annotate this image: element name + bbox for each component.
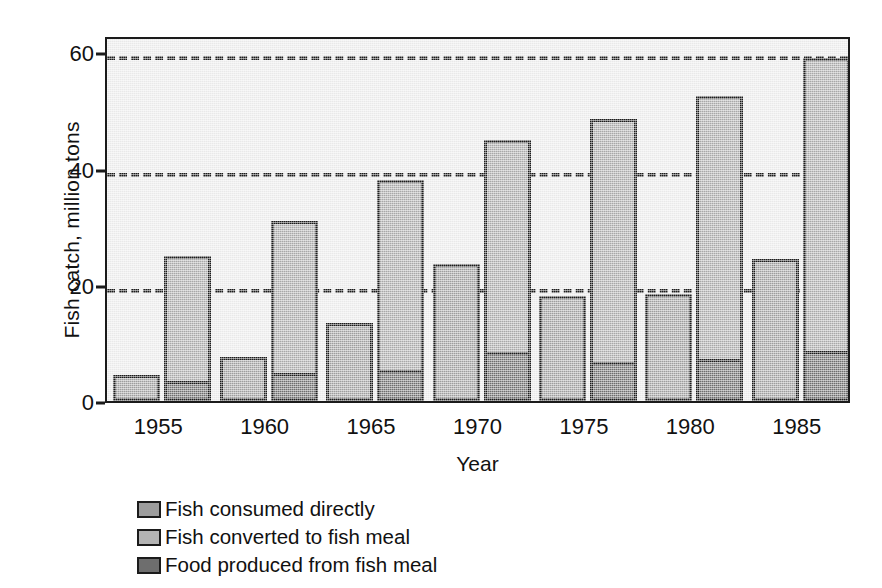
legend-item-1[interactable]: Fish converted to fish meal bbox=[137, 524, 437, 550]
bar-food-from-fish-meal-1955[interactable] bbox=[164, 381, 211, 401]
bar-converted-to-fish-meal-1985[interactable] bbox=[803, 58, 850, 401]
bar-group-1980 bbox=[645, 35, 743, 401]
chart-legend: Fish consumed directlyFish converted to … bbox=[137, 496, 437, 580]
bar-consumed-directly-1985[interactable] bbox=[752, 259, 799, 401]
bar-food-from-fish-meal-1980[interactable] bbox=[696, 359, 743, 401]
x-tick-label-1960: 1960 bbox=[205, 414, 325, 440]
bar-group-1965 bbox=[326, 35, 424, 401]
bar-converted-to-fish-meal-1965[interactable] bbox=[377, 180, 424, 401]
bar-converted-to-fish-meal-1955[interactable] bbox=[164, 256, 211, 401]
bar-consumed-directly-1975[interactable] bbox=[539, 296, 586, 401]
legend-label-0: Fish consumed directly bbox=[165, 499, 375, 520]
x-tick-label-1970: 1970 bbox=[418, 414, 538, 440]
legend-swatch-icon-1 bbox=[137, 529, 161, 546]
x-tick-label-1975: 1975 bbox=[524, 414, 644, 440]
y-tick-mark-0 bbox=[96, 402, 105, 405]
bar-consumed-directly-1955[interactable] bbox=[113, 375, 160, 401]
x-tick-label-1980: 1980 bbox=[630, 414, 750, 440]
legend-item-2[interactable]: Food produced from fish meal bbox=[137, 552, 437, 578]
legend-swatch-icon-2 bbox=[137, 557, 161, 574]
y-tick-mark-60 bbox=[96, 53, 105, 56]
bar-converted-to-fish-meal-1970[interactable] bbox=[484, 140, 531, 401]
fish-catch-bar-chart: Fish catch, million tons 0204060 1955196… bbox=[0, 0, 882, 588]
y-tick-label-20: 20 bbox=[42, 274, 94, 300]
bar-group-1975 bbox=[539, 35, 637, 401]
bar-group-1985 bbox=[752, 35, 850, 401]
bar-food-from-fish-meal-1985[interactable] bbox=[803, 351, 850, 401]
plot-area bbox=[105, 37, 850, 403]
x-tick-label-1985: 1985 bbox=[737, 414, 857, 440]
bar-consumed-directly-1970[interactable] bbox=[433, 264, 480, 401]
y-tick-mark-20 bbox=[96, 285, 105, 288]
y-tick-mark-40 bbox=[96, 169, 105, 172]
x-axis-title: Year bbox=[105, 452, 850, 476]
bar-converted-to-fish-meal-1980[interactable] bbox=[696, 96, 743, 401]
bar-group-1970 bbox=[433, 35, 531, 401]
bar-food-from-fish-meal-1975[interactable] bbox=[590, 362, 637, 402]
bar-consumed-directly-1965[interactable] bbox=[326, 323, 373, 401]
legend-label-2: Food produced from fish meal bbox=[165, 555, 437, 576]
bar-food-from-fish-meal-1970[interactable] bbox=[484, 352, 531, 401]
bar-food-from-fish-meal-1965[interactable] bbox=[377, 370, 424, 401]
y-tick-label-60: 60 bbox=[42, 41, 94, 67]
x-tick-label-1965: 1965 bbox=[311, 414, 431, 440]
bar-group-1960 bbox=[220, 35, 318, 401]
y-tick-label-40: 40 bbox=[42, 158, 94, 184]
bar-converted-to-fish-meal-1975[interactable] bbox=[590, 119, 637, 401]
legend-item-0[interactable]: Fish consumed directly bbox=[137, 496, 437, 522]
bar-converted-to-fish-meal-1960[interactable] bbox=[271, 221, 318, 401]
legend-label-1: Fish converted to fish meal bbox=[165, 527, 410, 548]
bar-consumed-directly-1980[interactable] bbox=[645, 294, 692, 401]
x-tick-label-1955: 1955 bbox=[98, 414, 218, 440]
bar-food-from-fish-meal-1960[interactable] bbox=[271, 373, 318, 401]
bar-group-1955 bbox=[113, 35, 211, 401]
legend-swatch-icon-0 bbox=[137, 501, 161, 518]
y-tick-label-0: 0 bbox=[42, 390, 94, 416]
bar-consumed-directly-1960[interactable] bbox=[220, 357, 267, 401]
